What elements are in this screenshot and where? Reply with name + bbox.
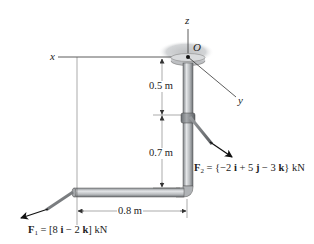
origin-point	[186, 55, 190, 59]
force-arrow-f1	[21, 209, 48, 218]
vertical-pipe	[183, 63, 193, 186]
dim-label-0.8m: 0.8 m	[117, 206, 143, 217]
diagram-canvas	[0, 0, 314, 244]
y-axis-label: y	[238, 95, 243, 106]
y-axis	[188, 57, 236, 97]
cable-f2	[190, 117, 212, 144]
pipe-force-diagram: x y z O 0.5 m 0.7 m 0.8 m F2 = {−2 i + 5…	[0, 0, 314, 244]
dim-label-0.7m: 0.7 m	[148, 148, 174, 159]
dim-label-0.5m: 0.5 m	[148, 81, 174, 92]
horizontal-pipe	[74, 188, 184, 197]
cable-f1	[46, 192, 73, 210]
z-axis-label: z	[185, 15, 189, 26]
force-arrow-f2	[210, 142, 232, 157]
x-axis-label: x	[50, 51, 55, 62]
force-label-f1: F1 = [8 i − 2 k] kN	[28, 225, 107, 237]
force-label-f2: F2 = {−2 i + 5 j − 3 k} kN	[194, 163, 305, 175]
origin-label: O	[193, 42, 201, 53]
